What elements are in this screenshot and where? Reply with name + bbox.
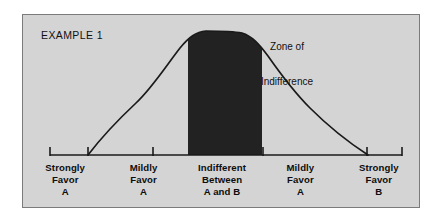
category-label-indifferent-between-a-and-b: Indifferent Between A and B — [183, 162, 261, 198]
category-line-3: A — [26, 186, 104, 198]
figure-page: EXAMPLE 1 Zone of Indifference Strongly … — [0, 0, 446, 224]
category-labels-row: Strongly Favor A Mildly Favor A Indiffer… — [26, 162, 418, 204]
category-line-3: A — [261, 186, 339, 198]
annotation-line-1: Zone of — [240, 41, 334, 53]
category-line-1: Strongly — [26, 162, 104, 174]
zone-of-indifference-annotation: Zone of Indifference — [240, 17, 334, 111]
category-line-2: Favor — [26, 174, 104, 186]
category-line-1: Indifferent — [183, 162, 261, 174]
category-label-mildly-favor-a-right: Mildly Favor A — [261, 162, 339, 198]
category-label-strongly-favor-b: Strongly Favor B — [340, 162, 418, 198]
category-line-2: Favor — [340, 174, 418, 186]
category-label-strongly-favor-a: Strongly Favor A — [26, 162, 104, 198]
category-line-1: Strongly — [340, 162, 418, 174]
category-line-3: B — [340, 186, 418, 198]
example-label: EXAMPLE 1 — [41, 29, 103, 41]
category-line-3: A — [104, 186, 182, 198]
category-line-3: A and B — [183, 186, 261, 198]
category-line-2: Favor — [261, 174, 339, 186]
category-line-1: Mildly — [104, 162, 182, 174]
annotation-line-2: Indifference — [240, 76, 334, 88]
category-line-2: Favor — [104, 174, 182, 186]
category-line-2: Between — [183, 174, 261, 186]
category-label-mildly-favor-a-left: Mildly Favor A — [104, 162, 182, 198]
category-line-1: Mildly — [261, 162, 339, 174]
